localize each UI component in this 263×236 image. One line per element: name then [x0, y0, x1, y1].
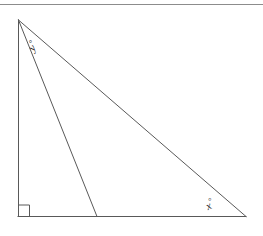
geometry-figure: y° x° — [0, 0, 263, 236]
diagram-canvas — [0, 0, 263, 236]
triangle-hypotenuse — [19, 20, 247, 217]
right-angle-marker — [19, 205, 30, 216]
